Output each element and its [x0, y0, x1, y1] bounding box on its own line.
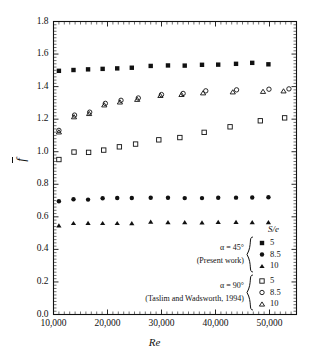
legend-entry-label: 8.5 [270, 249, 281, 259]
y-tick-label: 1.6 [19, 48, 49, 58]
x-tick-label: 50,000 [240, 318, 300, 328]
y-axis-label-text: f [13, 158, 29, 162]
x-axis-label: Re [0, 336, 309, 348]
legend-entry-label: 5 [270, 275, 274, 285]
y-tick-label: 1.4 [19, 81, 49, 91]
legend-entry-label: 10 [270, 260, 279, 270]
x-tick-label: 10,000 [24, 318, 84, 328]
legend-entry-label: 10 [270, 298, 279, 308]
x-tick-label: 40,000 [186, 318, 246, 328]
y-tick-label: 0.4 [19, 243, 49, 253]
legend-header: S/e [268, 224, 279, 234]
legend-source-present-work: (Present work) [120, 256, 244, 265]
y-tick-label: 1.2 [19, 113, 49, 123]
y-tick-label: 0.6 [19, 211, 49, 221]
y-tick-label: 1.8 [19, 16, 49, 26]
legend-condition-90: α = 90° [90, 281, 244, 290]
legend-condition-45: α = 45° [120, 243, 244, 252]
y-tick-label: 0.2 [19, 276, 49, 286]
legend-entry-label: 5 [270, 237, 274, 247]
x-tick-label: 20,000 [78, 318, 138, 328]
legend-source-taslim: (Taslim and Wadsworth, 1994) [90, 294, 244, 303]
legend-entry-label: 8.5 [270, 287, 281, 297]
x-tick-label: 30,000 [132, 318, 192, 328]
y-tick-label: 1.0 [19, 146, 49, 156]
y-tick-label: 0.8 [19, 178, 49, 188]
